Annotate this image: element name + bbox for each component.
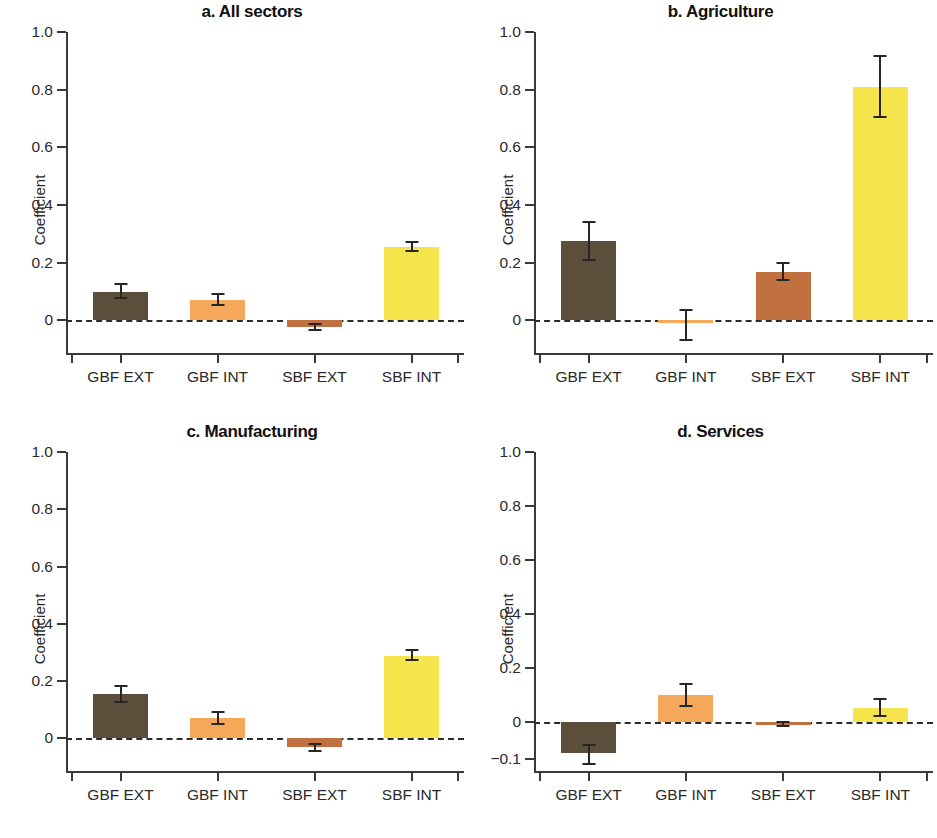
error-bar-cap (114, 297, 127, 299)
x-axis-label-sbf-int: SBF INT (382, 786, 441, 804)
x-axis-tick (782, 773, 784, 781)
error-bar (879, 699, 881, 716)
y-axis-tick (525, 319, 534, 321)
y-axis-tick-label: 0 (512, 713, 521, 731)
x-axis-spine (66, 353, 464, 355)
error-bar-cap (777, 725, 790, 727)
error-bar-cap (211, 723, 224, 725)
panel-c-title: c. Manufacturing (0, 422, 468, 442)
x-axis-label-gbf-ext: GBF EXT (555, 368, 621, 386)
panel-c-plot: 1.00.80.60.40.20GBF EXTGBF INTSBF EXTSBF… (66, 452, 460, 772)
y-axis-tick (525, 89, 534, 91)
x-axis-tick (685, 355, 687, 363)
error-bar-cap (777, 721, 790, 723)
y-axis-tick-label: 0 (44, 729, 53, 747)
error-bar-cap (582, 221, 595, 223)
y-axis-tick (57, 89, 66, 91)
y-axis-tick (57, 508, 66, 510)
x-axis-label-sbf-ext: SBF EXT (751, 368, 816, 386)
y-axis-tick (525, 505, 534, 507)
x-axis-label-gbf-int: GBF INT (655, 368, 716, 386)
x-axis-spine (534, 771, 933, 773)
y-axis-tick-label: 0.4 (499, 605, 521, 623)
y-axis-spine (534, 32, 536, 354)
x-axis-label-gbf-ext: GBF EXT (555, 786, 621, 804)
y-axis-tick (525, 146, 534, 148)
y-axis-tick-label: 0.6 (499, 551, 521, 569)
error-bar-cap (679, 683, 692, 685)
y-axis-tick (525, 613, 534, 615)
x-axis-label-gbf-ext: GBF EXT (87, 786, 153, 804)
error-bar-cap (308, 329, 321, 331)
y-axis-tick (525, 667, 534, 669)
y-axis-tick (57, 451, 66, 453)
x-axis-tick (314, 773, 316, 781)
y-axis-tick-label: 0.2 (499, 254, 521, 272)
y-axis-tick-label: 0.2 (31, 672, 53, 690)
bar-sbf-int (853, 87, 908, 320)
x-axis-label-sbf-int: SBF INT (851, 368, 910, 386)
x-axis-label-sbf-ext: SBF EXT (751, 786, 816, 804)
x-axis-tick (217, 355, 219, 363)
zero-reference-line (534, 320, 933, 322)
y-axis-tick-label: 0.4 (31, 615, 53, 633)
error-bar-cap (582, 259, 595, 261)
y-axis-tick (525, 758, 534, 760)
x-axis-end-tick (71, 355, 73, 363)
zero-reference-line (66, 320, 464, 322)
x-axis-tick (217, 773, 219, 781)
error-bar-cap (211, 711, 224, 713)
y-axis-tick-label: 1.0 (499, 23, 521, 41)
x-axis-end-tick (457, 773, 459, 781)
error-bar (588, 745, 590, 764)
error-bar (685, 310, 687, 340)
y-axis-tick (57, 737, 66, 739)
error-bar-cap (114, 283, 127, 285)
error-bar-cap (114, 685, 127, 687)
x-axis-tick (120, 773, 122, 781)
error-bar (879, 56, 881, 117)
panel-a-plot: 1.00.80.60.40.20GBF EXTGBF INTSBF EXTSBF… (66, 32, 460, 354)
x-axis-end-tick (457, 355, 459, 363)
panel-c: c. Manufacturing Coefficient 1.00.80.60.… (0, 420, 468, 838)
error-bar-cap (308, 323, 321, 325)
y-axis-tick-label: 0.6 (31, 558, 53, 576)
panel-a-title: a. All sectors (0, 2, 468, 22)
y-axis-spine (66, 32, 68, 354)
y-axis-tick (57, 623, 66, 625)
x-axis-tick (314, 355, 316, 363)
y-axis-tick (57, 146, 66, 148)
y-axis-tick-label: 0.8 (31, 81, 53, 99)
y-axis-tick-label: 0.8 (499, 81, 521, 99)
error-bar-cap (405, 241, 418, 243)
x-axis-label-sbf-ext: SBF EXT (282, 786, 347, 804)
x-axis-tick (685, 773, 687, 781)
error-bar-cap (211, 293, 224, 295)
x-axis-tick (879, 355, 881, 363)
y-axis-tick (57, 204, 66, 206)
x-axis-end-tick (926, 773, 928, 781)
error-bar-cap (679, 705, 692, 707)
error-bar-cap (211, 304, 224, 306)
x-axis-tick (782, 355, 784, 363)
y-axis-tick-label: 0.4 (499, 196, 521, 214)
y-axis-tick-label: 0.8 (499, 497, 521, 515)
y-axis-tick-label: 0.2 (31, 254, 53, 272)
y-axis-tick-label: 0.6 (499, 138, 521, 156)
error-bar-cap (405, 659, 418, 661)
bar-sbf-int (384, 247, 439, 320)
y-axis-tick-label: 1.0 (499, 443, 521, 461)
x-axis-tick (411, 355, 413, 363)
zero-reference-line (66, 738, 464, 740)
error-bar-cap (777, 262, 790, 264)
panel-b-title: b. Agriculture (468, 2, 937, 22)
x-axis-label-gbf-ext: GBF EXT (87, 368, 153, 386)
x-axis-tick (588, 355, 590, 363)
x-axis-spine (66, 771, 464, 773)
x-axis-label-sbf-int: SBF INT (851, 786, 910, 804)
error-bar (120, 284, 122, 298)
error-bar (685, 684, 687, 705)
y-axis-tick-label: 0.2 (499, 659, 521, 677)
panel-d-plot: 1.00.80.60.40.20−0.1GBF EXTGBF INTSBF EX… (534, 452, 929, 772)
error-bar-cap (405, 250, 418, 252)
